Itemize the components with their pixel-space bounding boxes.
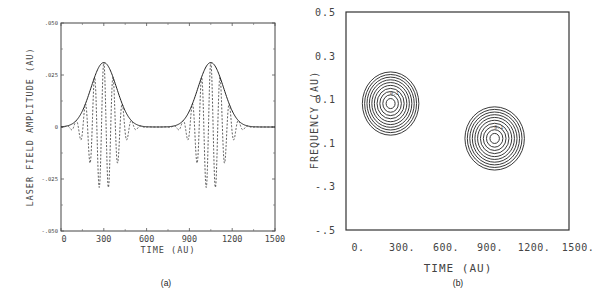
y-tick-label: -.3 [315, 181, 336, 192]
panel-b-chart: 0.50.30.1-.1-.3-.50.300.600.900.1200.150… [309, 7, 594, 288]
y-tick-label: -.5 [315, 225, 336, 236]
contour-ring [467, 109, 522, 167]
x-tick-label: 900 [182, 234, 197, 244]
contour-ring [486, 130, 502, 147]
contour-ring [383, 95, 399, 112]
x-tick-label: 300 [96, 234, 111, 244]
contour-lines: 0.10.1 [362, 72, 524, 170]
figure: .050.0250-.025-.050030060090012001500 TI… [0, 0, 604, 301]
x-tick-label: 1500. [562, 242, 595, 253]
contour-ring [490, 133, 499, 143]
x-tick-label: 1200 [222, 234, 242, 244]
y-tick-label: 0 [55, 124, 58, 130]
contour-ring [362, 72, 419, 135]
x-tick-label: 1500 [265, 234, 285, 244]
contour-ring [465, 107, 524, 170]
x-axis-label: TIME (AU) [140, 245, 195, 255]
envelope-line [61, 63, 275, 127]
y-axis-label: LASER FIELD AMPLITUDE (AU) [25, 47, 35, 206]
caption-b: (b) [453, 278, 464, 288]
x-tick-label: 900. [477, 242, 503, 253]
x-tick-label: 0. [351, 242, 364, 253]
contour-ring [386, 99, 395, 109]
y-tick-label: -.050 [41, 228, 58, 234]
axis-ticks: .050.0250-.025-.050030060090012001500 [41, 20, 285, 244]
x-tick-label: 600 [139, 234, 154, 244]
panel-a-chart: .050.0250-.025-.050030060090012001500 TI… [25, 20, 285, 288]
y-tick-label: -.025 [41, 176, 58, 182]
contour-ring [472, 115, 517, 163]
y-tick-label: 0.3 [315, 51, 336, 62]
contour-ring [369, 80, 411, 128]
x-tick-label: 300. [389, 242, 415, 253]
x-tick-label: 0 [61, 234, 66, 244]
y-tick-label: .050 [45, 20, 58, 26]
y-tick-label: .025 [45, 72, 58, 78]
contour-ring [365, 75, 417, 133]
x-axis-label: TIME (AU) [424, 262, 493, 275]
caption-a: (a) [161, 278, 172, 288]
plot-lines [61, 63, 275, 188]
y-tick-label: 0.5 [315, 7, 336, 18]
axis-ticks: 0.50.30.1-.1-.3-.50.300.600.900.1200.150… [315, 7, 594, 253]
contour-label: 0.1 [390, 90, 399, 96]
y-axis-label: FREQUENCY (AU) [309, 71, 320, 169]
x-tick-label: 600. [433, 242, 459, 253]
x-tick-label: 1200. [518, 242, 551, 253]
contour-label: 0.1 [494, 124, 503, 130]
